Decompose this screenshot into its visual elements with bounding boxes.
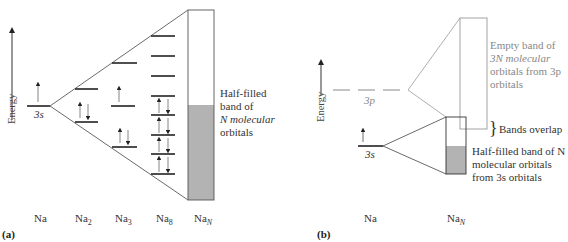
panel-b: Energy 3p 3s Empty band of 3N molecular — [315, 18, 565, 241]
brace-icon: } — [489, 118, 498, 138]
svg-text:band of: band of — [220, 100, 254, 112]
overlap-caption: } Bands overlap — [489, 118, 563, 138]
svg-text:Na: Na — [34, 212, 47, 224]
svg-text:orbitals from 3p: orbitals from 3p — [490, 65, 561, 77]
na3-levels — [111, 63, 137, 147]
half-filled-3s-band — [446, 117, 466, 174]
3p-level: 3p — [333, 90, 408, 106]
3s-level-b: 3s — [358, 130, 383, 160]
empty-3p-band — [460, 18, 487, 129]
svg-text:Na2: Na2 — [75, 212, 92, 227]
svg-text:Half-filled: Half-filled — [220, 87, 267, 99]
empty-band-caption: Empty band of 3N molecular orbitals from… — [489, 39, 561, 90]
energy-axis-b: Energy — [315, 62, 326, 122]
svg-text:Na8: Na8 — [156, 212, 173, 227]
panel-b-label: (b) — [317, 228, 331, 241]
na-3s-level: 3s — [27, 84, 50, 120]
svg-text:NaN: NaN — [194, 212, 213, 227]
svg-text:from 3s orbitals: from 3s orbitals — [472, 171, 542, 183]
energy-label-b: Energy — [315, 91, 326, 122]
column-labels-b: Na NaN — [364, 212, 466, 227]
column-labels-a: Na Na2 Na3 Na8 NaN — [34, 212, 213, 227]
svg-text:orbitals: orbitals — [490, 78, 523, 90]
svg-text:3p: 3p — [363, 94, 376, 106]
svg-text:Na: Na — [364, 212, 377, 224]
panel-a-label: (a) — [2, 228, 15, 241]
3s-label: 3s — [33, 108, 44, 120]
na8-levels — [151, 36, 175, 174]
svg-text:Na3: Na3 — [115, 212, 132, 227]
energy-label-a: Energy — [6, 93, 17, 124]
na2-levels — [75, 89, 98, 122]
panel-a: Energy 3s — [2, 10, 275, 241]
svg-text:molecular orbitals: molecular orbitals — [472, 158, 552, 170]
svg-text:NaN: NaN — [447, 212, 466, 227]
band-theory-diagram: Energy 3s — [0, 0, 568, 242]
nan-band-a — [188, 10, 214, 200]
band-caption-a: Half-filled band of N molecular orbitals — [219, 87, 275, 138]
svg-text:orbitals: orbitals — [220, 126, 253, 138]
svg-text:Bands overlap: Bands overlap — [499, 123, 563, 135]
svg-text:Half-filled band of N: Half-filled band of N — [472, 145, 565, 157]
half-band-caption: Half-filled band of N molecular orbitals… — [472, 145, 565, 183]
energy-axis-a: Energy — [6, 30, 17, 124]
svg-text:Empty band of: Empty band of — [490, 39, 556, 51]
cone-lower-line — [50, 106, 188, 200]
svg-text:N molecular: N molecular — [219, 113, 275, 125]
svg-text:3N molecular: 3N molecular — [489, 52, 551, 64]
svg-text:3s: 3s — [364, 148, 375, 160]
